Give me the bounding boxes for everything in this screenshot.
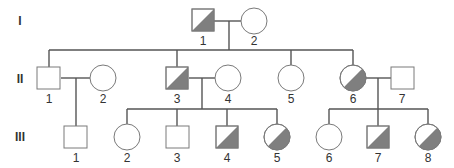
individual-number: 3: [174, 92, 181, 106]
individual-III-3: 3: [166, 126, 189, 165]
generation-label-II: II: [17, 72, 24, 86]
individual-II-7: 7: [391, 67, 414, 106]
individual-II-4: 4: [215, 65, 241, 106]
individual-II-6: 6: [340, 65, 366, 106]
generation-label-I: I: [18, 14, 21, 28]
individual-number: 3: [174, 151, 181, 165]
individual-number: 1: [200, 34, 207, 48]
individual-II-5: 5: [278, 65, 304, 106]
individual-III-1: 1: [64, 126, 87, 165]
individual-III-5: 5: [264, 124, 290, 165]
generation-label-III: III: [15, 130, 25, 144]
individual-number: 1: [46, 92, 53, 106]
individual-number: 2: [124, 151, 131, 165]
individual-II-1: 1: [37, 67, 60, 106]
individual-number: 4: [225, 92, 232, 106]
pedigree-chart: I II III 1 2 1 2 3 4 5: [0, 0, 454, 168]
individual-number: 7: [375, 151, 382, 165]
individual-number: 2: [251, 34, 258, 48]
individual-I-1: 1: [192, 9, 214, 48]
individual-II-3: 3: [166, 67, 188, 106]
individual-III-8: 8: [415, 124, 441, 165]
individual-number: 5: [288, 92, 295, 106]
individual-number: 7: [399, 92, 406, 106]
individual-number: 6: [326, 151, 333, 165]
individual-number: 2: [100, 92, 107, 106]
individual-I-2: 2: [241, 8, 267, 48]
individual-III-7: 7: [367, 126, 389, 165]
individual-III-2: 2: [114, 124, 140, 165]
individual-III-6: 6: [316, 124, 342, 165]
individual-III-4: 4: [216, 126, 238, 165]
individual-number: 5: [274, 151, 281, 165]
individual-number: 8: [425, 151, 432, 165]
individual-number: 1: [73, 151, 80, 165]
individual-number: 6: [350, 92, 357, 106]
individual-number: 4: [224, 151, 231, 165]
individual-II-2: 2: [90, 65, 116, 106]
